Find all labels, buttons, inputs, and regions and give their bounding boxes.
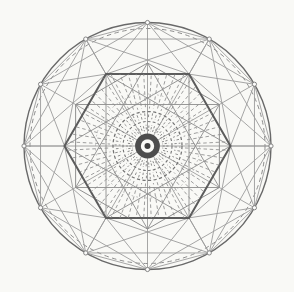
engraving-page xyxy=(0,0,294,292)
mandala-svg xyxy=(0,0,294,292)
center-bullseye xyxy=(138,136,157,155)
